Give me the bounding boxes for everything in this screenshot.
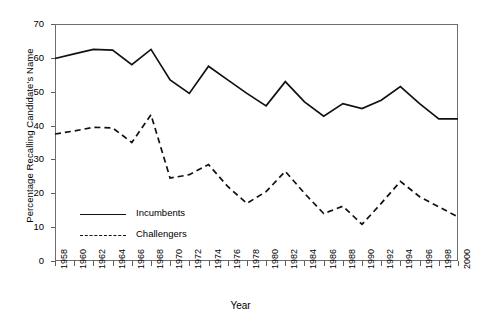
- legend-label-incumbents: Incumbents: [136, 207, 185, 218]
- x-axis-title: Year: [0, 300, 481, 311]
- legend-label-challengers: Challengers: [136, 228, 187, 239]
- series-line-incumbents: [55, 49, 458, 118]
- legend-swatch-solid-line-icon: [80, 214, 126, 215]
- data-lines-layer: [0, 0, 481, 323]
- series-line-challengers: [55, 115, 458, 225]
- legend-swatch-dashed-line-icon: [80, 235, 126, 236]
- chart-figure: Percentage Recalling Candidate's Name 01…: [0, 0, 481, 323]
